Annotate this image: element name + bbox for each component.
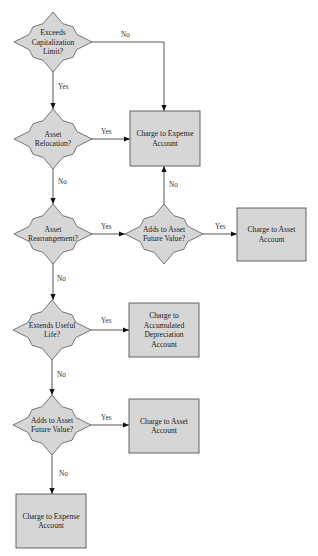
edge-d3-d4: [91, 231, 125, 236]
edge-d3-d5: [50, 264, 55, 300]
edge-label-yes: Yes: [101, 223, 112, 231]
arrowhead-icon: [50, 294, 55, 300]
edge-label-yes: Yes: [101, 414, 112, 422]
process-label-line: Depreciation: [144, 330, 183, 339]
decision-label-line: Exceeds: [40, 28, 65, 37]
edge-label-yes: Yes: [101, 317, 112, 325]
flowchart: ExceedsCapitalizationLimit?AssetRelocati…: [0, 0, 318, 556]
decision-node-d4: Adds to AssetFuture Value?: [125, 204, 203, 264]
decision-label-line: Life?: [44, 330, 61, 339]
arrowhead-icon: [124, 136, 130, 141]
edge-label-no: No: [59, 470, 68, 478]
process-node-b4: Charge to AssetAccount: [129, 399, 199, 453]
arrowhead-icon: [49, 488, 54, 494]
process-node-b2: Charge to AssetAccount: [237, 208, 306, 261]
edge-d5-d6: [49, 360, 54, 395]
edge-label-no: No: [121, 31, 130, 39]
edge-d2-b1: [91, 136, 130, 141]
decision-node-d1: ExceedsCapitalizationLimit?: [14, 12, 92, 72]
edge-label-no: No: [57, 371, 66, 379]
edge-d6-b4: [91, 422, 129, 427]
arrowhead-icon: [50, 198, 55, 204]
edge-d5-b3: [91, 327, 129, 332]
connector-line: [92, 42, 164, 111]
decision-node-d5: Extends UsefulLife?: [13, 300, 91, 360]
process-label-line: Charge to Asset: [248, 225, 297, 234]
process-label-line: Account: [151, 426, 178, 435]
process-label-line: Account: [259, 235, 286, 244]
edge-label-no: No: [58, 178, 67, 186]
edge-d4-b1: [161, 166, 166, 204]
decision-label-line: Asset: [45, 130, 63, 139]
process-label-line: Charge to: [149, 311, 179, 320]
arrowhead-icon: [161, 166, 166, 172]
arrowhead-icon: [50, 103, 55, 109]
process-label-line: Charge to Expense: [22, 512, 80, 521]
arrowhead-icon: [119, 231, 125, 236]
decision-label-line: Limit?: [43, 47, 64, 56]
process-label-line: Account: [152, 139, 179, 148]
decision-label-line: Capitalization: [32, 38, 75, 47]
edge-d6-b5: [49, 455, 54, 494]
edge-label-yes: Yes: [101, 128, 112, 136]
process-node-b3: Charge toAccumulatedDepreciationAccount: [129, 303, 199, 357]
edge-d1-b1: [92, 42, 167, 111]
process-label-line: Charge to Expense: [136, 129, 194, 138]
decision-label-line: Adds to Asset: [31, 416, 74, 425]
decision-node-d3: AssetRearrangement?: [14, 204, 92, 264]
decision-label-line: Relocation?: [35, 139, 72, 148]
decision-label-line: Asset: [45, 225, 63, 234]
process-label-line: Accumulated: [144, 321, 185, 330]
arrowhead-icon: [161, 105, 166, 111]
arrowhead-icon: [49, 389, 54, 395]
decision-node-d6: Adds to AssetFuture Value?: [13, 395, 91, 455]
arrowhead-icon: [231, 231, 237, 236]
process-label-line: Charge to Asset: [140, 417, 189, 426]
edge-label-no: No: [57, 275, 66, 283]
decision-label-line: Rearrangement?: [28, 234, 78, 243]
process-label-line: Account: [38, 521, 65, 530]
edge-d4-b2: [203, 231, 237, 236]
process-label-line: Account: [151, 340, 178, 349]
decision-label-line: Future Value?: [143, 234, 186, 243]
decision-label-line: Extends Useful: [29, 321, 76, 330]
arrowhead-icon: [123, 422, 129, 427]
edge-label-no: No: [169, 181, 178, 189]
decision-node-d2: AssetRelocation?: [14, 109, 92, 169]
arrowhead-icon: [123, 327, 129, 332]
decision-label-line: Adds to Asset: [143, 225, 186, 234]
process-node-b1: Charge to ExpenseAccount: [130, 111, 200, 166]
edge-d1-d2: [50, 72, 55, 109]
decision-label-line: Future Value?: [31, 425, 74, 434]
process-node-b5: Charge to ExpenseAccount: [16, 494, 86, 548]
edge-label-yes: Yes: [215, 223, 226, 231]
edge-label-yes: Yes: [58, 83, 69, 91]
edge-d2-d3: [50, 169, 55, 204]
